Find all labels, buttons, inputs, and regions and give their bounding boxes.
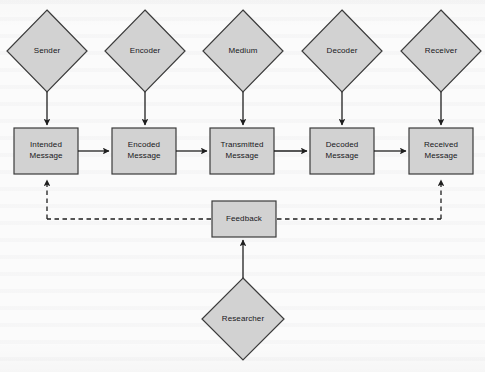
node-decoder[interactable] [302, 10, 382, 92]
node-intended-message[interactable] [14, 128, 78, 174]
node-decoded-message[interactable] [310, 128, 374, 174]
node-medium[interactable] [203, 10, 283, 92]
diagram-canvas: Sender Encoder Medium Decoder Receiver R… [0, 0, 485, 372]
node-researcher[interactable] [202, 278, 284, 360]
node-sender[interactable] [7, 10, 87, 92]
node-encoder[interactable] [105, 10, 185, 92]
node-encoded-message[interactable] [112, 128, 176, 174]
node-receiver[interactable] [401, 10, 481, 92]
node-feedback[interactable] [212, 201, 276, 237]
node-transmitted-message[interactable] [210, 128, 274, 174]
node-received-message[interactable] [409, 128, 473, 174]
diagram-graphics [0, 0, 485, 372]
